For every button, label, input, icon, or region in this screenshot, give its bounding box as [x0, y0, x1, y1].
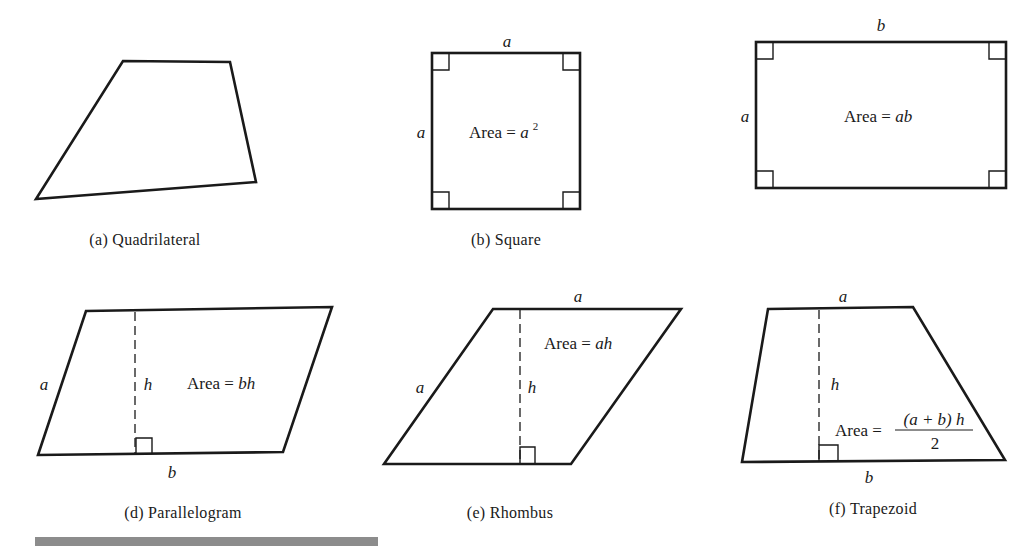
square-side-left-label: a — [417, 123, 426, 142]
rectangle-figure: b a Area = ab — [741, 16, 1006, 188]
right-angle-mark-top-left — [432, 53, 449, 70]
right-angle-mark-bottom-left — [756, 171, 773, 188]
quadrilateral-caption: (a) Quadrilateral — [89, 231, 201, 249]
rectangle-area-formula: Area = ab — [844, 107, 912, 126]
parallelogram-area-formula: Area = bh — [187, 374, 255, 393]
square-area-prefix: Area = — [469, 123, 520, 142]
trapezoid-figure: a h Area = (a + b) h 2 b (f) Trapezoid — [742, 287, 1005, 518]
bottom-rule — [35, 537, 378, 546]
rhombus-side-left-label: a — [416, 378, 425, 397]
rhombus-caption: (e) Rhombus — [467, 504, 553, 522]
trapezoid-area-prefix: Area = — [835, 421, 882, 440]
trapezoid-area-denominator: 2 — [931, 434, 940, 453]
right-angle-mark — [136, 438, 152, 454]
right-angle-mark — [819, 445, 838, 461]
rhombus-area-var: ah — [595, 334, 612, 353]
right-angle-mark — [520, 447, 535, 463]
parallelogram-side-bottom-label: b — [168, 463, 177, 482]
rectangle-area-prefix: Area = — [844, 107, 895, 126]
square-area-exponent: 2 — [533, 120, 539, 132]
right-angle-mark-top-right — [989, 42, 1006, 59]
trapezoid-height-label: h — [831, 375, 840, 394]
right-angle-mark-bottom-right — [563, 192, 580, 209]
parallelogram-area-prefix: Area = — [187, 374, 238, 393]
quadrilateral-figure: (a) Quadrilateral — [36, 61, 256, 249]
rectangle-side-top-label: b — [877, 16, 886, 35]
quadrilateral-shape — [36, 61, 256, 199]
parallelogram-height-label: h — [144, 375, 153, 394]
square-area-formula: Area = a2 — [469, 120, 538, 142]
rhombus-height-label: h — [528, 378, 537, 397]
trapezoid-caption: (f) Trapezoid — [829, 500, 917, 518]
right-angle-mark-top-right — [563, 53, 580, 70]
square-side-top-label: a — [503, 32, 512, 51]
right-angle-mark-bottom-left — [432, 192, 449, 209]
parallelogram-area-var: bh — [238, 374, 255, 393]
rhombus-area-formula: Area = ah — [544, 334, 612, 353]
trapezoid-side-bottom-label: b — [865, 468, 874, 487]
right-angle-mark-bottom-right — [989, 171, 1006, 188]
rectangle-area-var: ab — [895, 107, 912, 126]
right-angle-mark-top-left — [756, 42, 773, 59]
parallelogram-shape — [38, 307, 332, 455]
rhombus-area-prefix: Area = — [544, 334, 595, 353]
trapezoid-area-numerator: (a + b) h — [903, 410, 964, 429]
rhombus-side-top-label: a — [574, 287, 583, 306]
parallelogram-side-left-label: a — [40, 375, 49, 394]
square-area-var: a — [520, 123, 529, 142]
rectangle-side-left-label: a — [741, 107, 750, 126]
square-figure: a a Area = a2 (b) Square — [417, 32, 580, 249]
parallelogram-caption: (d) Parallelogram — [124, 504, 242, 522]
parallelogram-figure: a h Area = bh b (d) Parallelogram — [38, 307, 332, 522]
rhombus-figure: a a h Area = ah (e) Rhombus — [384, 287, 681, 522]
trapezoid-side-top-label: a — [839, 287, 848, 306]
square-caption: (b) Square — [471, 231, 541, 249]
geometry-figure: (a) Quadrilateral a a Area = a2 (b) Squa… — [0, 0, 1034, 552]
